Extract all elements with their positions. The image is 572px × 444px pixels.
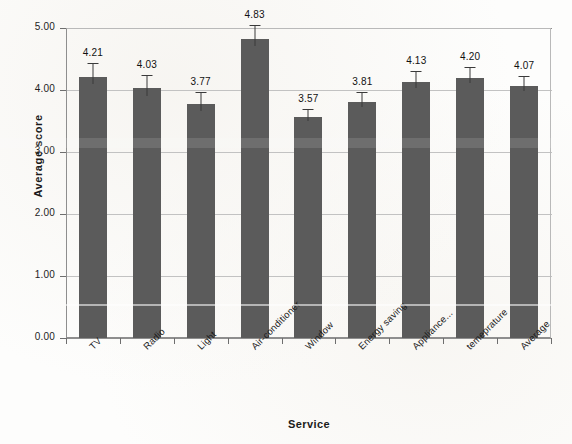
bar-value-label: 3.81 xyxy=(352,76,372,87)
y-tick-label: 3.00 xyxy=(0,145,55,156)
bar[interactable] xyxy=(456,78,484,338)
error-bar xyxy=(146,75,147,96)
bar-value-label: 4.13 xyxy=(406,55,426,66)
error-bar-cap xyxy=(303,109,314,110)
x-tick-mark xyxy=(228,338,229,344)
error-bar xyxy=(470,67,471,83)
error-bar-cap xyxy=(195,92,206,93)
x-tick-mark xyxy=(443,338,444,344)
x-tick-mark xyxy=(335,338,336,344)
bar[interactable] xyxy=(510,86,538,338)
bar[interactable] xyxy=(79,77,107,338)
x-axis-title: Service xyxy=(66,418,552,430)
error-bar-cap xyxy=(465,67,476,68)
error-bar xyxy=(92,63,93,84)
bar[interactable] xyxy=(241,39,269,338)
bar-group[interactable]: 3.81 xyxy=(335,28,389,338)
bar[interactable] xyxy=(187,104,215,338)
bar-value-label: 3.57 xyxy=(298,93,318,104)
y-tick-label: 1.00 xyxy=(0,269,55,280)
bar[interactable] xyxy=(402,82,430,338)
error-bar-cap xyxy=(141,75,152,76)
bar-group[interactable]: 3.77 xyxy=(174,28,228,338)
bar-chart: 0.001.002.003.004.005.00 Average score 4… xyxy=(0,0,572,444)
bar-value-label: 4.03 xyxy=(137,59,157,70)
error-bar xyxy=(254,25,255,46)
bar-group[interactable]: 4.13 xyxy=(389,28,443,338)
error-bar xyxy=(416,71,417,87)
error-bar xyxy=(362,92,363,107)
bar-value-label: 4.83 xyxy=(244,9,264,20)
bar-value-label: 3.77 xyxy=(191,76,211,87)
error-bar xyxy=(524,76,525,91)
error-bar xyxy=(308,109,309,121)
x-tick-mark xyxy=(389,338,390,344)
bar-group[interactable]: 4.03 xyxy=(120,28,174,338)
bar-value-label: 4.20 xyxy=(460,51,480,62)
x-tick-mark xyxy=(551,338,552,344)
error-bar-cap xyxy=(87,63,98,64)
error-bar-cap xyxy=(519,76,530,77)
bar-value-label: 4.07 xyxy=(514,60,534,71)
x-tick-mark xyxy=(282,338,283,344)
bar[interactable] xyxy=(348,102,376,338)
bar-group[interactable]: 4.20 xyxy=(443,28,497,338)
bar-group[interactable]: 4.21 xyxy=(66,28,120,338)
error-bar-cap xyxy=(249,25,260,26)
x-tick-mark xyxy=(497,338,498,344)
x-tick-mark xyxy=(174,338,175,344)
y-tick-label: 0.00 xyxy=(0,331,55,342)
bar-value-label: 4.21 xyxy=(83,47,103,58)
error-bar-cap xyxy=(411,71,422,72)
bars-layer: 4.214.033.774.833.573.814.134.204.07 xyxy=(66,28,551,338)
y-tick-label: 5.00 xyxy=(0,21,55,32)
x-tick-mark xyxy=(120,338,121,344)
x-tick-mark xyxy=(66,338,67,344)
bar-group[interactable]: 4.07 xyxy=(497,28,551,338)
y-axis-title: Average score xyxy=(32,96,44,216)
error-bar-cap xyxy=(357,92,368,93)
bar[interactable] xyxy=(133,88,161,338)
y-tick-label: 2.00 xyxy=(0,207,55,218)
error-bar xyxy=(200,92,201,111)
bar-group[interactable]: 3.57 xyxy=(282,28,336,338)
y-tick-label: 4.00 xyxy=(0,83,55,94)
bar-group[interactable]: 4.83 xyxy=(228,28,282,338)
